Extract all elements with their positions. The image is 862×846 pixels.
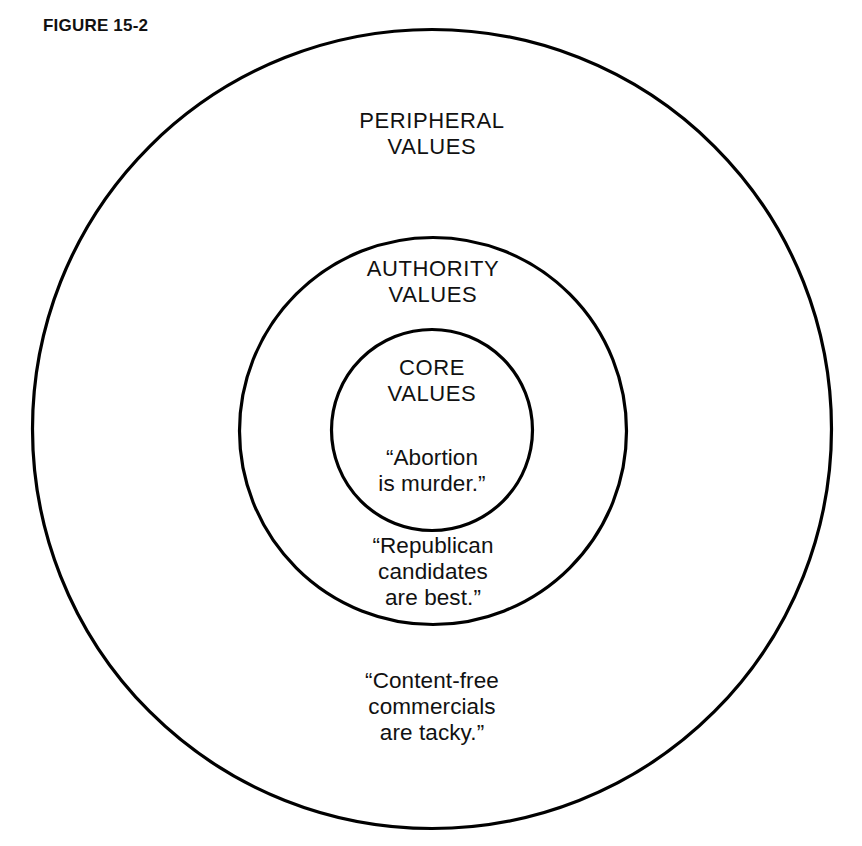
concentric-values-diagram: PERIPHERAL VALUES “Content-free commerci…	[0, 0, 862, 846]
authority-values-quote: “Republican candidates are best.”	[253, 533, 613, 611]
core-values-label: CORE VALUES	[312, 355, 552, 406]
peripheral-values-label: PERIPHERAL VALUES	[232, 108, 632, 159]
figure-page: FIGURE 15-2 PERIPHERAL VALUES “Content-f…	[0, 0, 862, 846]
core-values-quote: “Abortion is murder.”	[312, 445, 552, 497]
authority-values-label: AUTHORITY VALUES	[253, 256, 613, 307]
peripheral-values-quote: “Content-free commercials are tacky.”	[232, 668, 632, 746]
